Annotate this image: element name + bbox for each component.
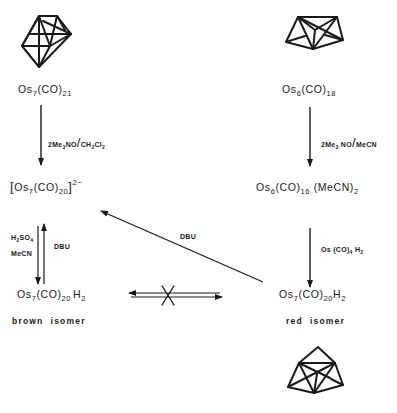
charge: 2− [73, 178, 83, 187]
ligand: (CO) [34, 181, 59, 193]
reagent-part: 2Me [321, 141, 336, 148]
compound-os6co18: Os6(CO)18 [282, 84, 336, 95]
subscript: 20 [62, 294, 72, 303]
reagent-dbu-left: DBU [54, 243, 70, 250]
element: Os [18, 83, 33, 95]
subscript: 2 [360, 249, 363, 255]
bracket: ] [68, 179, 72, 194]
compound-os7co20h2-red: Os7(CO)20H2 [279, 289, 346, 300]
cross-out-icon [162, 286, 174, 305]
subscript: 2 [81, 294, 86, 303]
element: Os [256, 181, 271, 193]
element: Os [17, 288, 32, 300]
reagent-part: NO [66, 141, 77, 148]
element: Os [279, 288, 294, 300]
compound-os7co21: Os7(CO)21 [18, 84, 72, 95]
reagent-part: Cl [94, 141, 102, 148]
compound-os7co20h2-brown: Os7(CO)20H2 [17, 289, 86, 300]
reagent-h2so4: H2SO4 [11, 234, 33, 241]
reagent-me3no-mecn: 2Me3 NO/MeCN [321, 136, 377, 149]
subscript: 3 [336, 144, 339, 150]
reagent-me3no-ch2cl2: 2Me3NO/CH2Cl2 [48, 136, 105, 149]
reaction-scheme: Os7(CO)21 Os6(CO)18 2Me3NO/CH2Cl2 2Me3 N… [0, 0, 397, 413]
label-brown-isomer: brown isomer [12, 317, 86, 326]
subscript: 6 [297, 89, 302, 98]
reagent-part: NO [339, 141, 352, 148]
element: Os [14, 181, 29, 193]
ligand: (CO) [36, 288, 61, 300]
cluster-os7-icon [22, 16, 71, 67]
ligand: (CO) [275, 181, 300, 193]
subscript: 4 [30, 237, 33, 243]
reagent-part: MeCN [356, 141, 377, 148]
reagent-os-co4-h2: Os (CO)4 H2 [321, 246, 363, 253]
arrow-red-to-dianion [101, 211, 263, 282]
cluster-os6-icon [286, 17, 343, 49]
subscript: 2 [102, 144, 105, 150]
reagent-part: 2Me [48, 141, 63, 148]
reagent-part: CH [81, 141, 92, 148]
reagent-part: SO [19, 234, 30, 241]
subscript: 20 [324, 294, 334, 303]
ligand: (CO) [298, 288, 323, 300]
subscript: 4 [350, 249, 353, 255]
subscript: 2 [341, 294, 346, 303]
subscript: 6 [271, 187, 276, 196]
subscript: 2 [16, 237, 19, 243]
cluster-os7-red-icon [288, 347, 343, 393]
subscript: 20 [59, 187, 69, 196]
subscript: 18 [327, 89, 337, 98]
subscript: 7 [32, 294, 37, 303]
label-red-isomer: red isomer [286, 317, 345, 326]
subscript: 7 [29, 187, 34, 196]
ligand: (MeCN) [310, 181, 354, 193]
scheme-graphics [0, 0, 397, 413]
subscript: 2 [354, 187, 359, 196]
subscript: 21 [63, 89, 73, 98]
reagent-mecn: MeCN [11, 250, 32, 257]
reagent-dbu-diagonal: DBU [180, 233, 196, 240]
subscript: 3 [63, 144, 66, 150]
ligand: (CO) [301, 83, 326, 95]
subscript: 16 [301, 187, 311, 196]
element: Os [282, 83, 297, 95]
ligand: (CO) [37, 83, 62, 95]
reagent-part: Os (CO) [321, 246, 350, 253]
subscript: 7 [33, 89, 38, 98]
compound-os7co20-dianion: [Os7(CO)20]2− [10, 180, 82, 193]
subscript: 7 [294, 294, 299, 303]
compound-os6co16-mecn2: Os6(CO)16 (MeCN)2 [256, 182, 359, 193]
